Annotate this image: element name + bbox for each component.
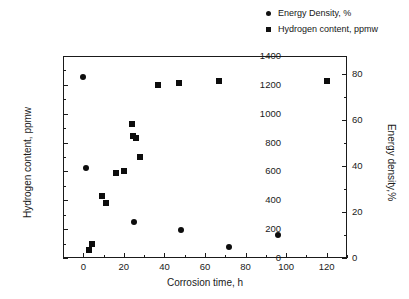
y-axis-tick [63,114,68,115]
secondary-y-axis-tick-label: 20 [352,207,378,217]
x-axis-minor-tick [266,255,267,258]
x-axis-tick-label: 120 [312,262,342,272]
secondary-y-axis-tick [342,74,347,75]
x-axis-tick [124,253,125,258]
x-axis-minor-tick [225,255,226,258]
y-axis-tick-label: 1000 [241,109,281,119]
y-axis-tick-label: 600 [241,166,281,176]
y-axis-tick [63,143,68,144]
scatter-chart-figure: Energy Density, % Hydrogen content, ppmw… [0,0,409,299]
square-marker-icon [262,27,274,32]
legend-item-hydrogen-content: Hydrogen content, ppmw [262,22,407,36]
y-axis-minor-tick [63,99,66,100]
y-axis-label: Hydrogen content, ppmw [22,73,33,253]
legend-label-hydrogen-content: Hydrogen content, ppmw [278,24,378,34]
x-axis-label: Corrosion time, h [63,277,347,288]
y-axis-minor-tick [63,244,66,245]
chart-legend: Energy Density, % Hydrogen content, ppmw [262,6,407,38]
y-axis-tick-label: 400 [241,195,281,205]
y-axis-minor-tick [63,157,66,158]
x-axis-tick-label: 80 [231,262,261,272]
data-point-hydrogen-content [121,168,127,174]
x-axis-minor-tick [347,255,348,258]
y-axis-tick-label: 800 [241,138,281,148]
data-point-energy-density [131,219,137,225]
data-point-hydrogen-content [86,247,92,253]
data-point-energy-density [275,232,281,238]
data-point-hydrogen-content [133,135,139,141]
secondary-y-axis-minor-tick [344,143,347,144]
x-axis-tick [246,253,247,258]
data-point-energy-density [226,244,232,250]
data-point-hydrogen-content [155,82,161,88]
x-axis-tick [164,253,165,258]
x-axis-tick-label: 60 [190,262,220,272]
secondary-y-axis-minor-tick [344,189,347,190]
x-axis-tick [327,253,328,258]
legend-label-energy-density: Energy Density, % [278,8,351,18]
plot-area: 0200400600800100012001400 [63,56,347,258]
y-axis-minor-tick [63,128,66,129]
x-axis-tick [83,253,84,258]
secondary-y-axis-tick-label: 0 [352,253,378,263]
data-point-hydrogen-content [129,121,135,127]
x-axis-minor-tick [306,255,307,258]
secondary-y-axis-label: Energy density,% [386,73,397,253]
data-point-hydrogen-content [89,241,95,247]
data-point-energy-density [178,227,184,233]
secondary-y-axis-minor-tick [344,235,347,236]
y-axis-tick [63,229,68,230]
y-axis-tick [63,200,68,201]
secondary-y-axis-tick [342,258,347,259]
data-point-hydrogen-content [324,78,330,84]
secondary-y-axis-tick-label: 60 [352,115,378,125]
x-axis-tick [205,253,206,258]
y-axis-tick-label: 1200 [241,80,281,90]
data-point-hydrogen-content [113,170,119,176]
data-point-hydrogen-content [176,80,182,86]
x-axis-tick-label: 20 [109,262,139,272]
x-axis-minor-tick [185,255,186,258]
circle-marker-icon [262,11,274,16]
secondary-y-axis-tick [342,212,347,213]
secondary-y-axis-minor-tick [344,97,347,98]
data-point-hydrogen-content [137,154,143,160]
x-axis-minor-tick [104,255,105,258]
data-point-energy-density [83,165,89,171]
secondary-y-axis-tick [342,120,347,121]
y-axis-tick-label: 1400 [241,51,281,61]
y-axis-tick [63,56,68,57]
x-axis-tick [286,253,287,258]
y-axis-tick [63,171,68,172]
y-axis-tick [63,85,68,86]
x-axis-tick-label: 100 [271,262,301,272]
x-axis-tick-label: 40 [149,262,179,272]
data-point-hydrogen-content [99,193,105,199]
y-axis-tick [63,258,68,259]
y-axis-minor-tick [63,215,66,216]
x-axis-minor-tick [144,255,145,258]
y-axis-minor-tick [63,70,66,71]
secondary-y-axis-tick-label: 80 [352,69,378,79]
data-point-hydrogen-content [103,200,109,206]
legend-item-energy-density: Energy Density, % [262,6,407,20]
y-axis-minor-tick [63,186,66,187]
data-point-energy-density [80,74,86,80]
secondary-y-axis-tick [342,166,347,167]
x-axis-tick-label: 0 [68,262,98,272]
secondary-y-axis-tick-label: 40 [352,161,378,171]
data-point-hydrogen-content [216,78,222,84]
